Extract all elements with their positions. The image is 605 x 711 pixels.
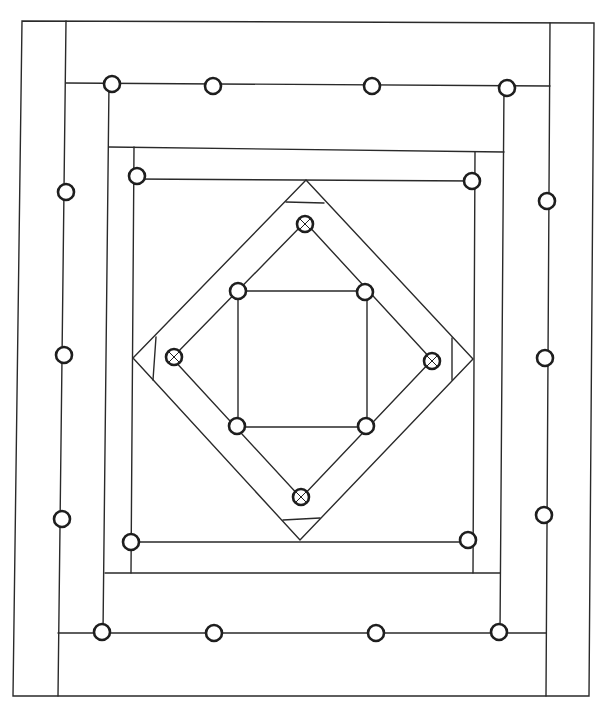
diamond-cross-bar (153, 337, 156, 380)
second-frame-right (500, 86, 504, 633)
circle-icon (358, 418, 374, 434)
center-square (238, 291, 367, 427)
second-frame-top (109, 147, 504, 152)
circle-icon (368, 625, 384, 641)
circle-icon (54, 511, 70, 527)
circle-icon (229, 418, 245, 434)
outer-border (13, 21, 594, 696)
diamond-ring (133, 180, 473, 540)
quilt-diagram (0, 0, 605, 711)
inner-square-left (131, 147, 134, 573)
circle-icon (56, 347, 72, 363)
circle-icon (460, 532, 476, 548)
circle-icon (230, 283, 246, 299)
circle-icon (104, 76, 120, 92)
circle-icon (129, 168, 145, 184)
crossed-circle-icon (297, 216, 313, 232)
crossed-circle-icon (293, 489, 309, 505)
circle-icon (364, 78, 380, 94)
circle-icon (94, 624, 110, 640)
inner-square-right (473, 152, 475, 573)
inner-diamond (172, 222, 432, 498)
tie-markers (54, 76, 555, 641)
circle-icon (357, 284, 373, 300)
circle-icon (206, 625, 222, 641)
outer-diamond (133, 180, 473, 540)
circle-icon (123, 534, 139, 550)
diamond-cross-bar (286, 202, 324, 203)
crossed-circle-icon (424, 353, 440, 369)
circle-icon (491, 624, 507, 640)
circle-icon (537, 350, 553, 366)
circle-icon (536, 507, 552, 523)
second-frame-left (103, 83, 109, 633)
diamond-cross-bar (283, 518, 320, 520)
crossed-circle-icon (166, 349, 182, 365)
circle-icon (464, 173, 480, 189)
circle-icon (539, 193, 555, 209)
frame-lines (13, 21, 594, 696)
top-strip-bottom-edge (66, 83, 550, 86)
circle-icon (499, 80, 515, 96)
circle-icon (205, 78, 221, 94)
circle-icon (58, 184, 74, 200)
